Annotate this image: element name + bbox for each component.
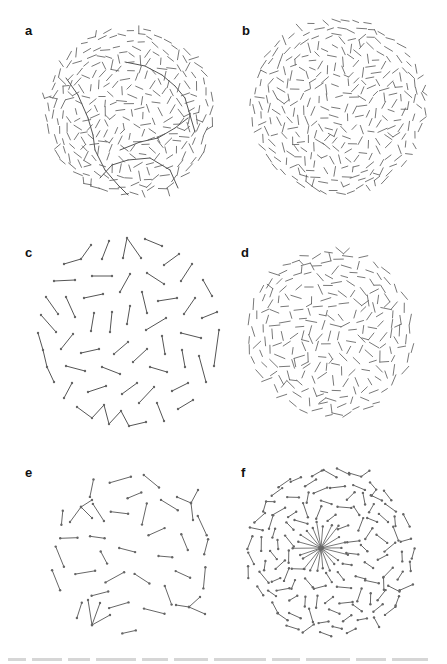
panel-label-f: f (241, 466, 245, 479)
panel-label-a: a (25, 24, 32, 37)
panel-b-network (250, 19, 427, 194)
panel-label-e: e (25, 466, 32, 479)
panel-f-network (246, 467, 416, 637)
cropped-caption (0, 658, 447, 664)
panel-a-network (43, 26, 213, 197)
panel-c-network (37, 237, 220, 427)
figure-canvas (0, 0, 447, 664)
panel-label-b: b (242, 24, 250, 37)
panel-d-network (248, 247, 414, 417)
panel-label-d: d (241, 246, 249, 259)
panel-label-c: c (25, 246, 32, 259)
panel-e-network (51, 474, 209, 635)
